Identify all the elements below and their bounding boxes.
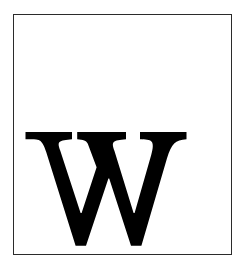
glyph-area: W W bbox=[14, 15, 231, 254]
glyph-text-fallback: W bbox=[22, 115, 202, 254]
page-root: W W bbox=[0, 0, 247, 279]
plate-border: W W bbox=[13, 14, 232, 255]
